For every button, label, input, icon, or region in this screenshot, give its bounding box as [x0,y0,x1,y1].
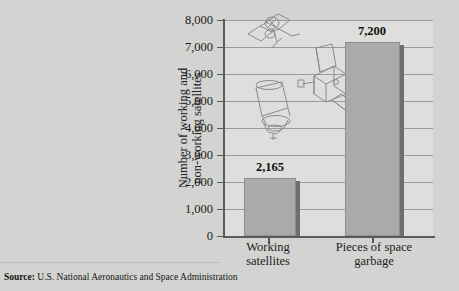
bar-space-garbage [345,42,400,236]
y-axis-spine [223,19,225,238]
source-divider [0,262,220,263]
source-label: Source: [4,272,35,282]
x-axis-label-working-satellites: Working satellites [228,241,308,269]
y-tick-8000 [217,20,223,21]
bar-working-satellites-shadow [296,181,300,236]
y-axis-title: Number of working and non-working satell… [176,20,204,236]
y-tick-4000 [217,128,223,129]
source-text: U.S. National Aeronautics and Space Admi… [37,272,237,282]
y-tick-3000 [217,155,223,156]
bar-chart-figure: 2,165 7,200 8,000 7,000 6,000 5,000 4,00… [0,0,459,258]
bar-space-garbage-shadow [400,45,404,236]
y-tick-6000 [217,74,223,75]
chart-page: 2,165 7,200 8,000 7,000 6,000 5,000 4,00… [0,0,459,291]
source-note: Source: U.S. National Aeronautics and Sp… [4,272,238,282]
y-tick-2000 [217,182,223,183]
bar-value-space-garbage: 7,200 [337,24,407,39]
y-tick-7000 [217,47,223,48]
x-axis-label-space-garbage: Pieces of space garbage [322,241,426,269]
y-tick-1000 [217,209,223,210]
y-tick-0 [217,236,223,237]
bar-working-satellites [244,178,296,236]
gridline-8000 [224,20,433,21]
y-tick-5000 [217,101,223,102]
bar-value-working-satellites: 2,165 [235,160,305,175]
x-axis-spine [223,236,435,238]
